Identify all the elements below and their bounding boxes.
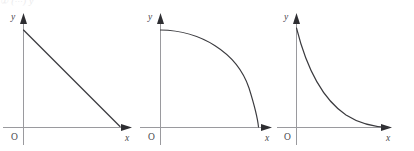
y-axis-label: y bbox=[283, 12, 289, 22]
y-axis-arrow-icon bbox=[20, 13, 27, 24]
curve-concave-decreasing bbox=[161, 30, 259, 127]
origin-label: O bbox=[284, 132, 291, 142]
x-axis-label: x bbox=[264, 133, 270, 143]
y-axis-arrow-icon bbox=[157, 13, 164, 24]
graph-panel-convex: y x O bbox=[276, 0, 414, 151]
curve-linear-decreasing bbox=[24, 30, 121, 127]
x-axis-arrow-icon bbox=[261, 124, 272, 131]
y-axis-arrow-icon bbox=[293, 13, 300, 24]
y-axis-label: y bbox=[147, 12, 153, 22]
origin-label: O bbox=[11, 132, 18, 142]
x-axis-arrow-icon bbox=[121, 124, 132, 131]
figure-canvas: ① (···) y y x O bbox=[0, 0, 414, 151]
graph-panel-concave: y x O bbox=[138, 0, 276, 151]
x-axis-label: x bbox=[385, 133, 391, 143]
graph-panel-linear: y x O bbox=[0, 0, 138, 151]
origin-label: O bbox=[148, 132, 155, 142]
x-axis-label: x bbox=[124, 133, 130, 143]
y-axis-label: y bbox=[10, 12, 16, 22]
curve-convex-decreasing bbox=[297, 28, 390, 128]
